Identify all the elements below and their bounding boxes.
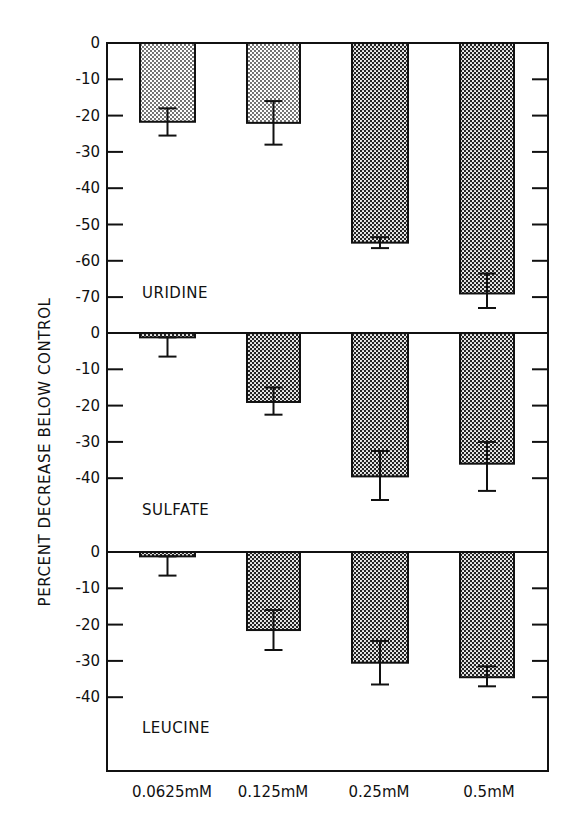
y-tick-label: -60 xyxy=(76,252,101,270)
y-tick-label: -10 xyxy=(76,579,101,597)
y-tick-label: -20 xyxy=(76,397,101,415)
y-tick-label: 0 xyxy=(90,34,100,52)
category-labels: 0.0625mM0.125mM0.25mM0.5mM xyxy=(132,783,515,801)
y-tick-label: -40 xyxy=(76,688,101,706)
x-category-label: 0.0625mM xyxy=(132,783,212,801)
y-tick-label: -40 xyxy=(76,469,101,487)
bar-chart: 0-10-20-30-40-50-60-70URIDINE0-10-20-30-… xyxy=(0,0,583,834)
y-tick-label: 0 xyxy=(90,324,100,342)
x-category-label: 0.125mM xyxy=(238,783,309,801)
panel-sulfate: 0-10-20-30-40SULFATE xyxy=(76,324,549,519)
panel-leucine: 0-10-20-30-40LEUCINE xyxy=(76,543,549,737)
x-category-label: 0.5mM xyxy=(463,783,514,801)
y-axis-label: PERCENT DECREASE BELOW CONTROL xyxy=(36,297,54,606)
y-tick-label: -10 xyxy=(76,360,101,378)
bar xyxy=(352,43,408,243)
y-tick-label: -10 xyxy=(76,70,101,88)
panel-label: URIDINE xyxy=(142,284,208,302)
y-tick-label: -30 xyxy=(76,652,101,670)
y-tick-label: -70 xyxy=(76,288,101,306)
bar xyxy=(460,43,514,293)
panel-label: SULFATE xyxy=(142,501,209,519)
bar xyxy=(460,552,514,677)
panels: 0-10-20-30-40-50-60-70URIDINE0-10-20-30-… xyxy=(76,34,549,737)
y-tick-label: -20 xyxy=(76,616,101,634)
y-tick-label: -40 xyxy=(76,179,101,197)
y-tick-label: -50 xyxy=(76,216,101,234)
panel-uridine: 0-10-20-30-40-50-60-70URIDINE xyxy=(76,34,549,308)
y-tick-label: -30 xyxy=(76,433,101,451)
y-tick-label: -20 xyxy=(76,107,101,125)
y-tick-label: 0 xyxy=(90,543,100,561)
x-category-label: 0.25mM xyxy=(349,783,410,801)
y-tick-label: -30 xyxy=(76,143,101,161)
panel-label: LEUCINE xyxy=(142,719,210,737)
